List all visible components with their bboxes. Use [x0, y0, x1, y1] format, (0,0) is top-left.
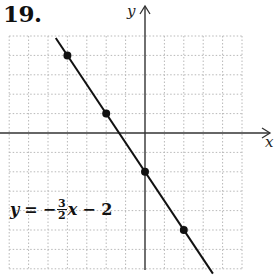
fraction-denominator: 2	[58, 210, 66, 221]
equation-variable: x	[68, 200, 78, 219]
equation-lhs: y	[10, 200, 19, 219]
equation-sign: −	[43, 200, 56, 219]
axes	[0, 6, 270, 270]
x-axis-label: x	[265, 133, 273, 151]
data-point	[141, 168, 149, 176]
data-point	[63, 51, 71, 59]
equation-label: y = − 3 2 x − 2	[10, 198, 112, 221]
equation-tail: − 2	[82, 200, 112, 219]
data-point	[180, 226, 188, 234]
grid-lines	[9, 36, 242, 269]
y-axis-label: y	[127, 2, 135, 20]
plotted-line	[56, 38, 213, 274]
problem-number: 19.	[3, 0, 42, 27]
coordinate-graph	[0, 0, 275, 278]
data-point	[102, 110, 110, 118]
equation-fraction: 3 2	[57, 198, 67, 221]
line-graph	[56, 38, 213, 274]
equation-equals: =	[24, 200, 37, 219]
